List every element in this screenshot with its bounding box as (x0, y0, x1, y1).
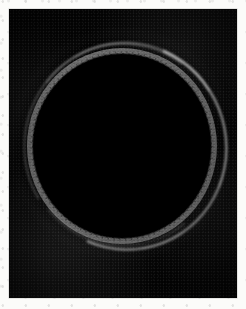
image-plate (9, 9, 237, 298)
illuminated-sphere (27, 48, 217, 244)
sphere-limb-brightening (27, 48, 217, 244)
figure-root (0, 0, 246, 309)
